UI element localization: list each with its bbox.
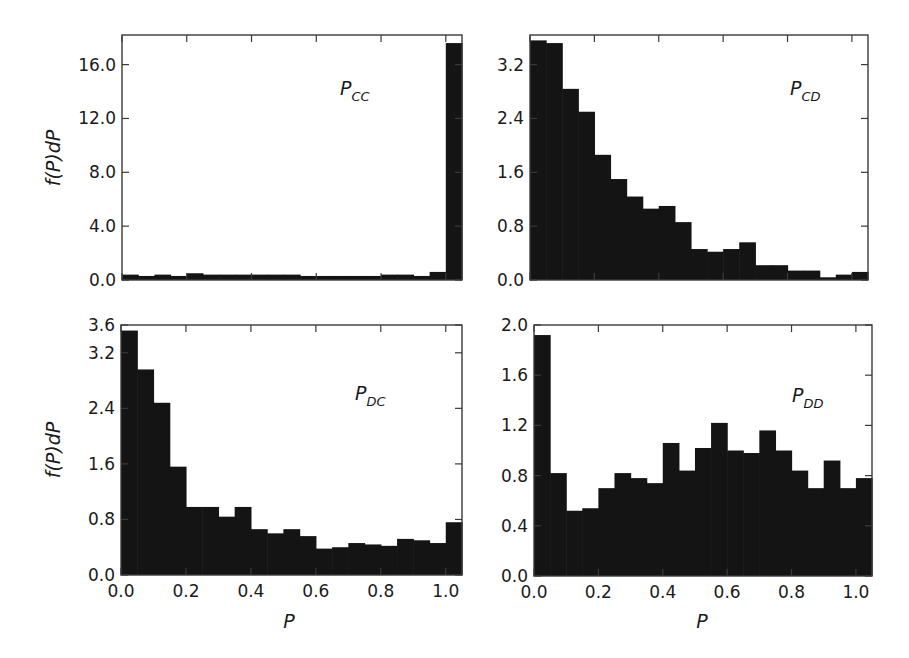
y-axis-title-top: f(P)dP [42, 129, 64, 186]
panel-label: PDC [355, 382, 386, 409]
y-tick-label: 0.0 [497, 270, 524, 290]
histogram-bar [631, 478, 648, 576]
y-tick-label: 4.0 [89, 216, 116, 236]
x-tick-label: 0.6 [714, 582, 741, 602]
x-tick-label: 1.0 [432, 581, 459, 601]
y-tick-label: 12.0 [78, 108, 116, 128]
histogram-bar [170, 467, 187, 575]
histogram-bar [743, 453, 760, 576]
histogram-bar [792, 471, 809, 576]
histogram-bar [771, 265, 788, 280]
histogram-bar [804, 271, 821, 280]
histogram-bar [446, 43, 463, 280]
histogram-bar [594, 155, 611, 280]
y-tick-label: 3.2 [497, 55, 524, 75]
histogram-bar [534, 335, 551, 576]
x-axis-title-left: P [283, 610, 295, 632]
histogram-bar [691, 249, 708, 280]
histogram-bar [186, 507, 203, 575]
histogram-bar [788, 271, 805, 280]
histogram-bar [202, 507, 219, 575]
histogram-bar [203, 275, 220, 280]
x-tick-label: 0.8 [367, 581, 394, 601]
histogram-bar [578, 112, 595, 280]
histogram-bar [627, 197, 644, 280]
histogram-bar [154, 275, 171, 280]
histogram-bar [235, 507, 252, 575]
plot-frame [122, 35, 462, 280]
panel-label: PCD [790, 77, 821, 104]
histogram-bar [187, 273, 204, 280]
histogram-bar [852, 272, 869, 280]
y-tick-label: 0.0 [89, 270, 116, 290]
y-tick-label: 2.4 [497, 108, 524, 128]
y-tick-label: 3.6 [88, 315, 115, 335]
histogram-bar [824, 461, 841, 576]
y-tick-label: 1.2 [501, 415, 528, 435]
histogram-bar [348, 543, 365, 575]
panel-pdc: 0.00.81.62.43.23.60.00.20.40.60.81.0PDC [88, 315, 463, 601]
histogram-bar [675, 222, 692, 280]
histogram-bar [840, 488, 857, 576]
histogram-bar [413, 540, 430, 575]
histogram-figure: 0.04.08.012.016.0PCC 0.00.81.62.43.2PCD … [0, 0, 909, 658]
x-tick-label: 0.2 [172, 581, 199, 601]
histogram-bar [546, 43, 563, 280]
histogram-bar [316, 549, 333, 575]
histogram-bar [723, 249, 740, 280]
panel-pcc: 0.04.08.012.016.0PCC [78, 35, 462, 290]
x-tick-label: 0.4 [649, 582, 676, 602]
histogram-bar [219, 275, 236, 280]
histogram-bar [332, 547, 349, 575]
y-tick-label: 16.0 [78, 55, 116, 75]
histogram-bar [836, 275, 853, 280]
x-tick-label: 0.6 [302, 581, 329, 601]
x-tick-label: 0.4 [237, 581, 264, 601]
panel-pdd: 0.00.40.81.21.62.00.00.20.40.60.81.0PDD [501, 315, 873, 602]
histogram-bar [659, 206, 676, 280]
x-tick-label: 0.8 [778, 582, 805, 602]
y-tick-label: 2.4 [88, 398, 115, 418]
histogram-bar [446, 522, 463, 575]
panel-pcd: 0.00.81.62.43.2PCD [497, 35, 869, 290]
y-tick-label: 0.8 [501, 466, 528, 486]
histogram-bar [663, 443, 680, 576]
histogram-bar [268, 275, 285, 280]
histogram-bar [252, 275, 269, 280]
y-tick-label: 0.8 [88, 509, 115, 529]
histogram-bar [727, 451, 744, 577]
histogram-bar [397, 539, 414, 575]
histogram-bar [598, 488, 615, 576]
x-tick-label: 0.0 [107, 581, 134, 601]
histogram-bar [530, 40, 547, 280]
histogram-bar [137, 369, 154, 575]
panel-label: PCC [340, 77, 371, 104]
histogram-bar [121, 331, 138, 575]
y-tick-label: 8.0 [89, 162, 116, 182]
histogram-bar [397, 275, 414, 280]
histogram-bar [739, 242, 756, 280]
histogram-bar [284, 275, 301, 280]
histogram-bar [856, 478, 873, 576]
histogram-bar [614, 473, 631, 576]
y-axis-title-bottom: f(P)dP [42, 421, 64, 478]
y-tick-label: 1.6 [497, 162, 524, 182]
y-tick-label: 1.6 [88, 454, 115, 474]
histogram-bar [582, 508, 599, 576]
histogram-bar [430, 272, 447, 280]
histogram-bar [808, 488, 825, 576]
panel-label: PDD [792, 384, 824, 411]
histogram-bar [550, 473, 567, 576]
histogram-bar [562, 89, 579, 280]
histogram-bar [755, 265, 772, 280]
histogram-bar [381, 275, 398, 280]
histogram-bar [430, 543, 447, 575]
histogram-bar [610, 179, 627, 280]
histogram-bar [153, 403, 170, 575]
histogram-bar [283, 529, 300, 575]
y-tick-label: 1.6 [501, 365, 528, 385]
histogram-bar [695, 448, 712, 576]
histogram-bar [707, 252, 724, 280]
histogram-bar [566, 511, 583, 576]
histogram-bar [267, 533, 284, 575]
